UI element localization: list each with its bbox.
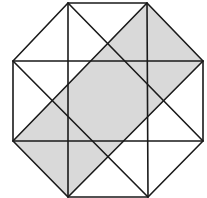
- line-vertical-right: [147, 3, 148, 197]
- octagon-diagram: [0, 0, 207, 198]
